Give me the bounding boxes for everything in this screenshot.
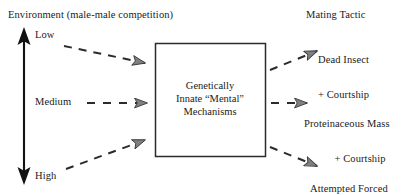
box-line-2: Innate “Mental” — [155, 92, 265, 105]
tactic-3-line-1: Attempted Forced — [310, 183, 416, 195]
competition-intensity-axis — [18, 27, 31, 185]
axis-label-low: Low — [35, 29, 55, 41]
tactic-2-line-1: Proteinaceous Mass — [304, 118, 416, 130]
box-line-1: Genetically — [155, 79, 265, 92]
mental-mechanisms-label: Genetically Innate “Mental” Mechanisms — [155, 79, 265, 118]
diagram-canvas: Environment (male-male competition) Mati… — [0, 0, 417, 195]
input-arrow-low — [64, 46, 145, 63]
axis-label-medium: Medium — [35, 96, 71, 108]
input-arrow-high — [66, 140, 145, 169]
environment-heading: Environment (male-male competition) — [8, 9, 173, 21]
tactic-1-line-1: Dead Insect — [318, 54, 414, 66]
axis-label-high: High — [35, 170, 56, 182]
mating-tactic-heading: Mating Tactic — [306, 9, 366, 21]
tactic-attempted-forced-copulation: Attempted Forced Copulation — [310, 159, 416, 195]
output-arrow-dead-insect — [270, 51, 317, 70]
box-line-3: Mechanisms — [155, 105, 265, 118]
